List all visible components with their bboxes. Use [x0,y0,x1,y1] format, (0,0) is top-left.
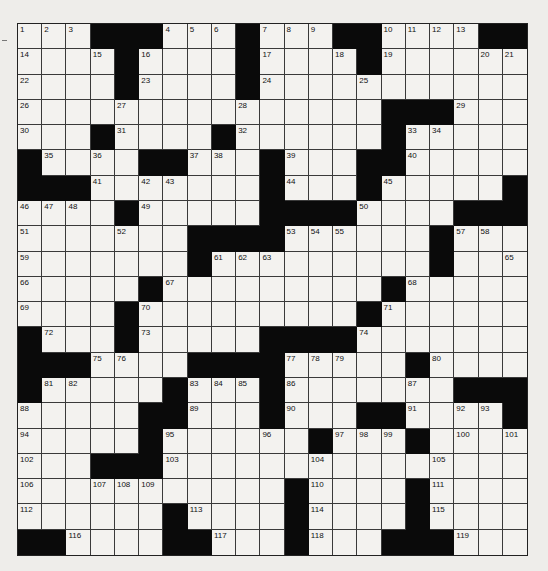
grid-cell[interactable] [139,125,163,150]
grid-cell[interactable] [42,100,66,125]
grid-cell[interactable] [333,378,357,403]
grid-cell[interactable] [406,226,430,251]
grid-cell[interactable] [503,302,527,327]
grid-cell[interactable]: 19 [382,49,406,74]
grid-cell[interactable] [357,353,381,378]
grid-cell[interactable] [236,150,260,175]
grid-cell[interactable] [454,504,478,529]
grid-cell[interactable] [42,302,66,327]
grid-cell[interactable]: 5 [188,24,212,49]
grid-cell[interactable]: 38 [212,150,236,175]
grid-cell[interactable] [188,429,212,454]
grid-cell[interactable] [66,150,90,175]
grid-cell[interactable]: 6 [212,24,236,49]
grid-cell[interactable]: 79 [333,353,357,378]
grid-cell[interactable] [357,378,381,403]
grid-cell[interactable] [66,100,90,125]
grid-cell[interactable] [236,479,260,504]
grid-cell[interactable] [503,327,527,352]
grid-cell[interactable] [66,226,90,251]
grid-cell[interactable]: 105 [430,454,454,479]
grid-cell[interactable] [454,353,478,378]
grid-cell[interactable] [66,479,90,504]
grid-cell[interactable]: 109 [139,479,163,504]
grid-cell[interactable] [260,302,284,327]
grid-cell[interactable]: 73 [139,327,163,352]
grid-cell[interactable] [115,277,139,302]
grid-cell[interactable] [91,75,115,100]
grid-cell[interactable] [309,100,333,125]
grid-cell[interactable] [454,150,478,175]
grid-cell[interactable] [163,49,187,74]
grid-cell[interactable] [479,353,503,378]
grid-cell[interactable] [260,125,284,150]
grid-cell[interactable] [163,226,187,251]
grid-cell[interactable] [382,327,406,352]
grid-cell[interactable] [454,125,478,150]
grid-cell[interactable] [188,176,212,201]
grid-cell[interactable] [188,479,212,504]
grid-cell[interactable] [479,150,503,175]
grid-cell[interactable] [115,378,139,403]
grid-cell[interactable] [454,277,478,302]
grid-cell[interactable] [42,479,66,504]
grid-cell[interactable] [66,429,90,454]
grid-cell[interactable] [42,504,66,529]
grid-cell[interactable] [188,302,212,327]
grid-cell[interactable] [454,479,478,504]
grid-cell[interactable] [309,302,333,327]
grid-cell[interactable]: 14 [18,49,42,74]
grid-cell[interactable] [285,75,309,100]
grid-cell[interactable]: 49 [139,201,163,226]
grid-cell[interactable] [333,504,357,529]
grid-cell[interactable] [382,201,406,226]
grid-cell[interactable] [42,403,66,428]
grid-cell[interactable] [188,327,212,352]
grid-cell[interactable] [382,252,406,277]
grid-cell[interactable] [91,504,115,529]
grid-cell[interactable] [357,530,381,555]
grid-cell[interactable] [454,176,478,201]
grid-cell[interactable] [333,479,357,504]
grid-cell[interactable] [357,277,381,302]
grid-cell[interactable] [479,479,503,504]
grid-cell[interactable] [382,75,406,100]
grid-cell[interactable]: 88 [18,403,42,428]
grid-cell[interactable]: 24 [260,75,284,100]
grid-cell[interactable]: 15 [91,49,115,74]
grid-cell[interactable] [42,429,66,454]
grid-cell[interactable]: 13 [454,24,478,49]
grid-cell[interactable] [260,100,284,125]
grid-cell[interactable] [333,277,357,302]
grid-cell[interactable] [406,49,430,74]
grid-cell[interactable]: 26 [18,100,42,125]
grid-cell[interactable] [66,125,90,150]
grid-cell[interactable]: 103 [163,454,187,479]
grid-cell[interactable] [479,504,503,529]
grid-cell[interactable]: 81 [42,378,66,403]
grid-cell[interactable]: 25 [357,75,381,100]
grid-cell[interactable] [285,252,309,277]
grid-cell[interactable]: 114 [309,504,333,529]
grid-cell[interactable] [309,176,333,201]
grid-cell[interactable] [212,176,236,201]
grid-cell[interactable]: 93 [479,403,503,428]
grid-cell[interactable] [163,353,187,378]
grid-cell[interactable] [503,75,527,100]
grid-cell[interactable] [91,302,115,327]
grid-cell[interactable]: 95 [163,429,187,454]
grid-cell[interactable] [357,252,381,277]
grid-cell[interactable]: 40 [406,150,430,175]
grid-cell[interactable]: 83 [188,378,212,403]
grid-cell[interactable] [163,327,187,352]
grid-cell[interactable]: 66 [18,277,42,302]
grid-cell[interactable]: 91 [406,403,430,428]
grid-cell[interactable] [430,378,454,403]
grid-cell[interactable] [260,530,284,555]
grid-cell[interactable]: 58 [479,226,503,251]
grid-cell[interactable]: 20 [479,49,503,74]
grid-cell[interactable] [406,176,430,201]
grid-cell[interactable]: 44 [285,176,309,201]
grid-cell[interactable] [91,201,115,226]
grid-cell[interactable]: 87 [406,378,430,403]
